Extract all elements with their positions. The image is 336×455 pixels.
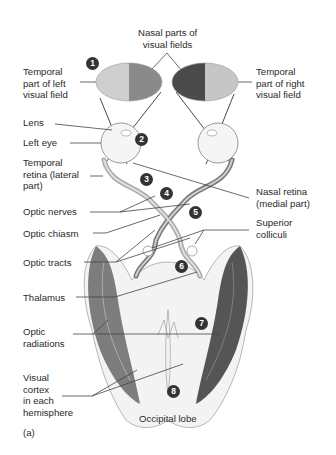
- label-nasal-parts: Nasal parts of visual fields: [138, 27, 197, 50]
- label-optic-chiasm: Optic chiasm: [23, 228, 78, 240]
- label-nasal-retina: Nasal retina (medial part): [256, 186, 310, 209]
- right-eye: [198, 123, 238, 163]
- label-thalamus: Thalamus: [23, 292, 65, 304]
- label-temporal-right: Temporal part of right visual field: [256, 66, 305, 101]
- label-optic-tracts: Optic tracts: [23, 257, 72, 269]
- step-badge-4: 4: [160, 187, 173, 200]
- label-lens: Lens: [23, 117, 44, 129]
- step-badge-3: 3: [140, 173, 153, 186]
- label-left-eye: Left eye: [23, 137, 57, 149]
- step-badge-8: 8: [167, 385, 180, 398]
- label-occipital-lobe: Occipital lobe: [139, 413, 197, 425]
- step-badge-2: 2: [135, 133, 148, 146]
- label-visual-cortex: Visual cortex in each hemisphere: [23, 372, 73, 418]
- label-optic-nerves: Optic nerves: [23, 206, 77, 218]
- step-badge-6: 6: [175, 260, 188, 273]
- label-temporal-retina: Temporal retina (lateral part): [23, 157, 79, 192]
- step-badge-5: 5: [189, 206, 202, 219]
- label-optic-radiations: Optic radiations: [23, 326, 65, 349]
- step-badge-7: 7: [195, 317, 208, 330]
- panel-label: (a): [23, 427, 35, 439]
- label-superior-colliculi: Superior colliculi: [256, 217, 292, 240]
- step-badge-1: 1: [86, 57, 99, 70]
- left-eye: [101, 123, 141, 163]
- label-temporal-left: Temporal part of left visual field: [23, 66, 68, 101]
